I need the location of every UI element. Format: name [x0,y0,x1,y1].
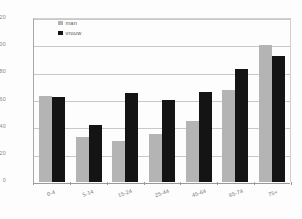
bars-layer [34,19,290,182]
y-tick-label-40: 40 [0,124,6,129]
x-tick-mark [254,182,255,185]
x-tick-mark [33,182,34,185]
x-tick-cell: 25-44 [144,186,181,214]
x-tick-label: 15-24 [117,188,133,198]
x-tick-mark [180,182,181,185]
x-tick-label: 45-64 [191,188,207,198]
bar-group [180,19,217,182]
y-tick-label-80: 80 [0,69,6,74]
bar [162,100,175,182]
x-tick-cell: 75+ [254,186,291,214]
x-tick-cell: 0-4 [33,186,70,214]
x-tick-cell: 15-24 [107,186,144,214]
bar [222,90,235,182]
y-tick-label-120: 120 [0,15,6,20]
bar-group [107,19,144,182]
x-tick-label: 75+ [267,189,278,198]
bar [112,141,125,182]
x-tick-label: 0-4 [46,189,56,197]
bar [89,125,102,182]
x-tick-mark [217,182,218,185]
x-axis: 0-45-1415-2425-4445-6465-7475+ [33,186,291,214]
bar-group [34,19,71,182]
bar-chart: man vrouw 120 100 80 60 40 20 0 0-45-141… [0,0,302,219]
bar [259,45,272,182]
gridline-0 [34,183,290,184]
bar-group [217,19,254,182]
x-tick-mark [144,182,145,185]
x-tick-cell: 45-64 [180,186,217,214]
y-tick-label-100: 100 [0,42,6,47]
bar [186,121,199,183]
bar [272,56,285,182]
bar [199,92,212,182]
bar [76,137,89,182]
x-tick-label: 65-74 [228,188,244,198]
x-tick-mark-end [291,182,292,185]
bar [149,134,162,182]
y-tick-label-60: 60 [0,97,6,102]
bar [125,93,138,182]
x-tick-mark [70,182,71,185]
x-tick-label: 5-14 [82,188,95,197]
bar [235,69,248,182]
bar [52,97,65,182]
bar-group [144,19,181,182]
bar [39,96,52,182]
x-tick-label: 25-44 [154,188,170,198]
x-tick-cell: 65-74 [217,186,254,214]
bar-group [253,19,290,182]
x-tick-mark [107,182,108,185]
bar-group [71,19,108,182]
plot-area [33,18,291,182]
x-tick-cell: 5-14 [70,186,107,214]
y-tick-label-0: 0 [0,178,6,183]
y-tick-label-20: 20 [0,151,6,156]
